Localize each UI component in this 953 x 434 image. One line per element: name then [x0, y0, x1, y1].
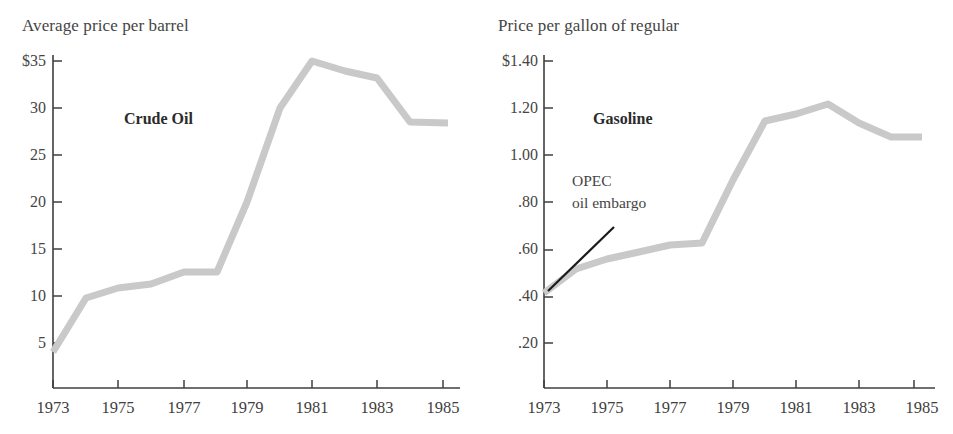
x-axis-ticks-crude: [53, 380, 443, 388]
crude-oil-data-line: [53, 61, 448, 352]
gasoline-data-line: [544, 104, 922, 293]
crude-oil-plot-svg: [0, 0, 480, 434]
chart-panel-crude-oil: Average price per barrel Crude Oil $35 3…: [0, 0, 480, 434]
dual-line-chart-figure: Average price per barrel Crude Oil $35 3…: [0, 0, 953, 434]
gasoline-plot-svg: [480, 0, 953, 434]
chart-panel-gasoline: Price per gallon of regular Gasoline OPE…: [480, 0, 953, 434]
x-axis-ticks-gas: [544, 380, 914, 388]
y-axis-ticks-gas: [544, 61, 553, 343]
y-axis-ticks-crude: [53, 61, 62, 343]
